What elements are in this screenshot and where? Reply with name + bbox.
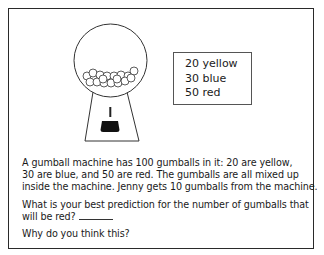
legend-yellow: 20 yellow <box>185 57 251 72</box>
problem-statement: A gumball machine has 100 gumballs in it… <box>22 157 314 194</box>
machine-base <box>85 92 139 141</box>
question-line: What is your best prediction for the num… <box>22 199 314 211</box>
color-legend-box: 20 yellow 30 blue 50 red <box>173 52 252 105</box>
question-line: will be red? <box>22 211 314 223</box>
problem-text: A gumball machine has 100 gumballs in it… <box>22 157 314 240</box>
legend-blue: 30 blue <box>185 72 251 87</box>
machine-chute <box>101 121 120 132</box>
answer-blank[interactable] <box>79 211 113 220</box>
prediction-question: What is your best prediction for the num… <box>22 199 314 223</box>
problem-line: A gumball machine has 100 gumballs in it… <box>22 157 314 169</box>
question-line-end: will be red? <box>22 211 76 222</box>
problem-line: 30 are blue, and 50 are red. The gumball… <box>22 169 314 181</box>
legend-red: 50 red <box>185 86 251 101</box>
followup-question: Why do you think this? <box>22 228 314 240</box>
problem-line: inside the machine. Jenny gets 10 gumbal… <box>22 181 314 193</box>
machine-handle <box>109 107 111 117</box>
